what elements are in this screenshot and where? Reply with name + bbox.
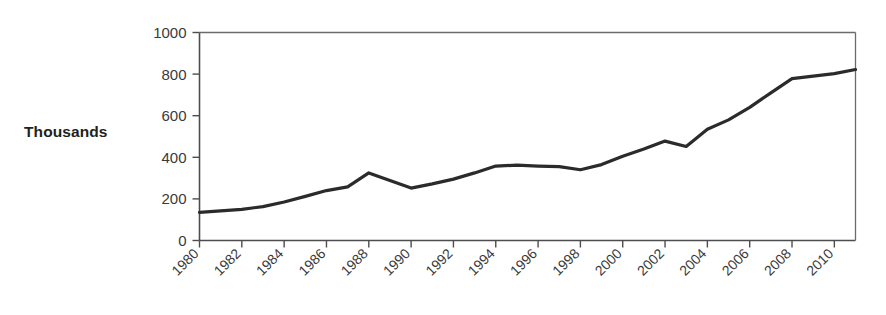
x-tick-label: 2000 xyxy=(592,245,625,278)
y-axis-ticks: 02004006008001000 xyxy=(153,24,199,249)
y-tick-label: 200 xyxy=(161,190,186,207)
line-chart-plot: 02004006008001000 1980198219841986198819… xyxy=(0,0,886,315)
x-tick-label: 2010 xyxy=(803,245,836,278)
y-tick-label: 0 xyxy=(178,232,186,249)
y-tick-label: 400 xyxy=(161,149,186,166)
x-tick-label: 1996 xyxy=(507,245,540,278)
data-series-group xyxy=(200,70,856,213)
x-tick-label: 1990 xyxy=(380,245,413,278)
x-tick-label: 2002 xyxy=(634,245,667,278)
y-tick-label: 600 xyxy=(161,107,186,124)
x-tick-label: 1994 xyxy=(465,245,498,278)
x-tick-label: 1982 xyxy=(211,245,244,278)
data-series-line xyxy=(200,70,856,213)
x-tick-label: 1988 xyxy=(338,245,371,278)
plot-frame xyxy=(200,33,856,241)
x-tick-label: 1980 xyxy=(168,245,201,278)
y-tick-label: 1000 xyxy=(153,24,186,41)
y-tick-label: 800 xyxy=(161,66,186,83)
x-tick-label: 2004 xyxy=(676,245,709,278)
chart-container: Thousands 02004006008001000 198019821984… xyxy=(0,0,886,315)
x-tick-label: 1992 xyxy=(422,245,455,278)
x-tick-label: 1998 xyxy=(549,245,582,278)
x-axis-ticks: 1980198219841986198819901992199419961998… xyxy=(168,241,836,279)
x-tick-label: 2008 xyxy=(761,245,794,278)
x-tick-label: 1984 xyxy=(253,245,286,278)
x-tick-label: 1986 xyxy=(295,245,328,278)
x-tick-label: 2006 xyxy=(718,245,751,278)
